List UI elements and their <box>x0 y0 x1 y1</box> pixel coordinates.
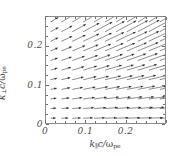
x-tick-minor <box>55 121 56 123</box>
quiver-arrow <box>105 117 116 119</box>
quiver-arrow <box>138 31 159 41</box>
y-tick-right-major <box>162 124 165 125</box>
y-axis-title-omega-subscript: pe <box>0 66 7 73</box>
y-tick-minor <box>46 104 48 105</box>
y-tick-minor <box>46 26 48 27</box>
y-tick-right-major <box>162 46 165 47</box>
quiver-arrow <box>116 65 133 71</box>
quiver-arrow <box>105 43 123 51</box>
quiver-arrow <box>105 32 124 41</box>
quiver-arrow <box>116 32 136 41</box>
x-tick-top-minor <box>136 17 137 19</box>
quiver-arrow <box>138 75 156 80</box>
y-tick-right-minor <box>163 16 165 17</box>
quiver-arrow <box>72 66 84 70</box>
quiver-arrow <box>62 67 71 70</box>
quiver-arrow <box>127 117 140 119</box>
x-tick-top-major <box>45 17 46 20</box>
x-axis-title: k∥c/ωpe <box>89 139 120 149</box>
x-tick-minor <box>116 121 117 123</box>
x-tick-top-major <box>85 17 86 20</box>
quiver-arrow <box>72 107 81 109</box>
quiver-arrow <box>83 86 95 89</box>
x-tick-top-minor <box>146 17 147 19</box>
quiver-arrow <box>62 87 71 90</box>
x-tick-top-minor <box>75 17 76 19</box>
quiver-arrow <box>72 77 83 80</box>
x-tick-minor <box>106 121 107 123</box>
quiver-arrow <box>62 47 72 51</box>
y-tick-right-minor <box>163 55 165 56</box>
quiver-arrow <box>51 88 57 90</box>
quiver-arrow <box>160 42 165 51</box>
quiver-arrow <box>62 36 73 41</box>
quiver-arrow <box>62 26 73 32</box>
quiver-arrow <box>94 96 107 99</box>
quiver-arrow <box>138 85 155 89</box>
quiver-arrow <box>160 53 165 61</box>
x-tick-top-major <box>126 17 127 20</box>
y-tick-right-minor <box>163 65 165 66</box>
x-tick-major <box>45 120 46 123</box>
y-axis-title-k: k <box>0 95 7 100</box>
quiver-plot-figure: 00.10.2 00.10.2 k∥c/ωpe k⊥c/ωpe <box>0 0 173 156</box>
x-tick-minor <box>95 121 96 123</box>
quiver-arrow <box>138 42 158 51</box>
x-tick-top-minor <box>95 17 96 19</box>
quiver-arrow <box>138 20 159 32</box>
x-tick-minor <box>146 121 147 123</box>
y-tick-right-minor <box>163 26 165 27</box>
y-tick-right-major <box>162 85 165 86</box>
y-tick-right-minor <box>163 75 165 76</box>
quiver-arrow <box>51 38 58 42</box>
quiver-arrow <box>51 117 56 119</box>
x-tick-top-minor <box>106 17 107 19</box>
quiver-arrow <box>72 87 82 90</box>
quiver-arrow <box>51 107 56 109</box>
quiver-arrow <box>116 54 134 61</box>
y-axis-title-omega: ω <box>0 73 7 80</box>
x-axis-title-omega: ω <box>106 139 113 149</box>
y-tick-right-minor <box>163 114 165 115</box>
quiver-arrow <box>51 28 59 32</box>
quiver-arrow <box>72 24 86 31</box>
quiver-arrow <box>83 107 94 109</box>
quiver-arrow <box>127 54 146 61</box>
quiver-arrow <box>62 17 73 22</box>
quiver-arrow <box>160 17 165 22</box>
x-tick-label: 0.2 <box>118 126 134 136</box>
x-tick-top-minor <box>55 17 56 19</box>
y-tick-label: 0.2 <box>27 40 43 50</box>
y-tick-right-minor <box>163 36 165 37</box>
y-axis-title-subscript: ⊥ <box>0 89 7 95</box>
x-axis-title-omega-subscript: pe <box>113 142 120 149</box>
quiver-arrow <box>51 68 58 71</box>
x-tick-minor <box>75 121 76 123</box>
x-tick-top-minor <box>156 17 157 19</box>
quiver-arrow <box>62 77 71 80</box>
x-tick-minor <box>65 121 66 123</box>
quiver-arrow <box>62 97 70 99</box>
quiver-arrow <box>105 107 118 109</box>
quiver-arrow <box>138 53 158 60</box>
quiver-arrow <box>127 75 144 80</box>
quiver-arrow <box>62 57 72 61</box>
quiver-arrow <box>62 107 69 109</box>
y-tick-minor <box>46 36 48 37</box>
vector-field-canvas <box>46 17 165 123</box>
quiver-arrow <box>116 43 135 51</box>
x-tick-major <box>85 120 86 123</box>
x-tick-top-minor <box>65 17 66 19</box>
quiver-arrow <box>127 32 147 42</box>
quiver-arrow <box>105 21 124 32</box>
y-tick-minor <box>46 16 48 17</box>
y-axis-title-tail: c/ <box>0 81 7 89</box>
quiver-arrow <box>116 117 128 119</box>
x-tick-top-major <box>166 17 167 20</box>
quiver-arrow <box>94 107 106 109</box>
y-tick-major <box>46 46 49 47</box>
quiver-arrow <box>94 117 105 119</box>
quiver-arrow <box>62 117 69 119</box>
quiver-arrow <box>51 58 58 61</box>
y-tick-right-minor <box>163 104 165 105</box>
